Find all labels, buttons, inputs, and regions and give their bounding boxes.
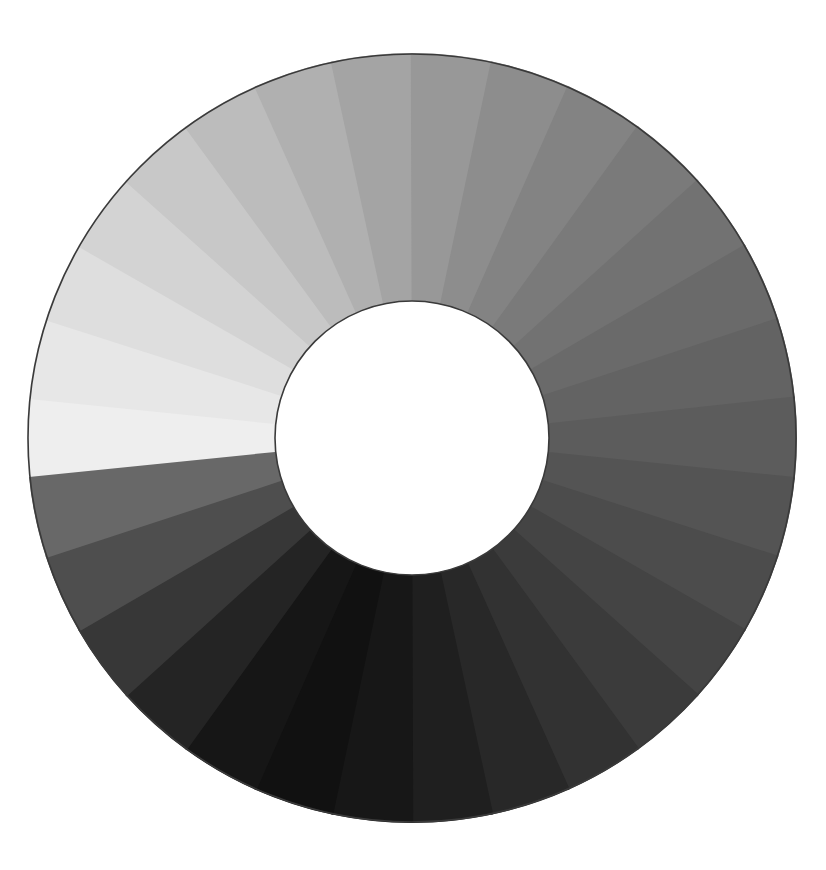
grayscale-value-wheel <box>0 0 826 870</box>
figure-canvas <box>0 0 826 870</box>
inner-hub-circle <box>275 301 549 575</box>
